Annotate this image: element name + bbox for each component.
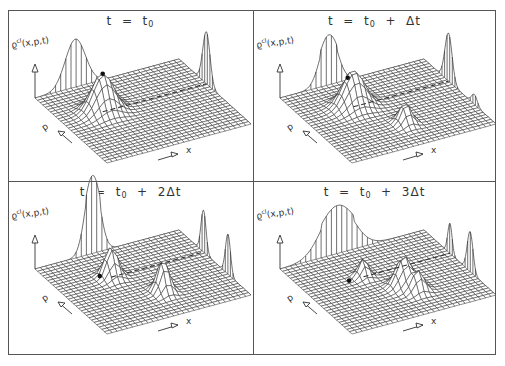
x-axis-arrow-icon [158,323,178,331]
surface-plot [8,10,253,181]
panel-t0-plus-3dt: t = t0 + 3Δt ϱcl(x,p,t) p x [253,181,496,355]
surface-plot [8,181,253,355]
z-axis-arrow-icon [32,64,38,98]
panel-t0: t = t0 ϱcl(x,p,t) p x [8,10,253,181]
x-axis-arrow-icon [403,152,423,160]
panel-divider-horizontal [8,181,496,182]
x-axis-arrow-icon [158,152,178,160]
panel-t0-plus-2dt: t = t0 + 2Δt ϱcl(x,p,t) p x [8,181,253,355]
p-axis-arrow-icon [303,131,317,143]
figure: t = t0 ϱcl(x,p,t) p x t = t0 + Δt ϱcl(x,… [0,0,505,366]
mesh-cells [280,230,496,334]
z-axis-arrow-icon [32,235,38,269]
panel-t0-plus-dt: t = t0 + Δt ϱcl(x,p,t) p x [253,10,496,181]
point-marker [347,278,352,283]
surface-plot [253,181,496,355]
z-axis-arrow-icon [277,64,283,98]
p-axis-arrow-icon [58,131,72,143]
mesh-cells [35,230,251,334]
point-marker [345,76,350,81]
x-axis-arrow-icon [403,323,423,331]
surface-plot [253,10,496,181]
z-axis-arrow-icon [277,235,283,269]
p-axis-arrow-icon [303,302,317,314]
p-axis-arrow-icon [58,302,72,314]
point-marker [98,274,103,279]
point-marker [100,72,105,77]
panel-divider-vertical [253,10,254,355]
mesh-cells [280,59,496,163]
